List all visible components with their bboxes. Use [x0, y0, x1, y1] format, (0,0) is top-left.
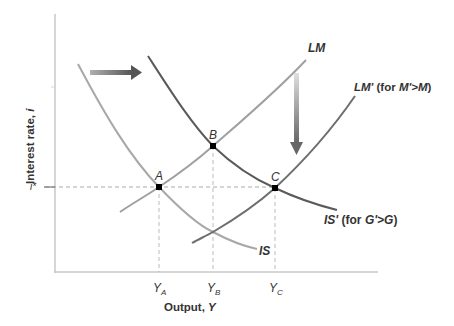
yb-label: YB	[207, 281, 221, 297]
is-label: IS	[259, 244, 270, 258]
point-a-marker	[156, 184, 162, 190]
point-c-marker	[272, 185, 278, 191]
point-c-label: C	[271, 170, 280, 184]
x-axis-title: Output, Y	[164, 301, 217, 313]
point-b-label: B	[209, 128, 217, 142]
ya-label: YA	[153, 281, 166, 297]
point-b-marker	[210, 143, 216, 149]
down-shift-arrow-icon	[290, 73, 303, 155]
yc-label: YC	[269, 281, 283, 297]
islm-diagram: A B C LM LM' (for M'>M) IS IS' (for G'>G…	[0, 0, 454, 326]
lm-prime-label: LM' (for M'>M)	[354, 81, 432, 93]
is-prime-label: IS' (for G'>G)	[324, 213, 397, 227]
point-a-label: A	[154, 169, 163, 183]
right-shift-arrow-icon	[90, 65, 142, 80]
lm-label: LM	[308, 41, 326, 55]
y-axis-title: Interest rate, i	[24, 108, 36, 184]
